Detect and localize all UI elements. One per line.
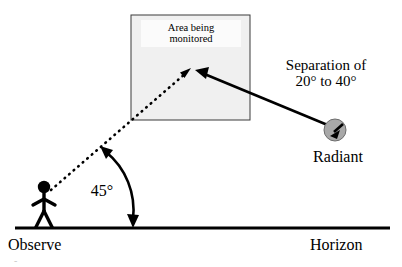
monitored-area-label: Area being monitored <box>141 22 241 45</box>
observer-leg-right <box>44 211 52 227</box>
observer-leg-left <box>36 211 44 227</box>
separation-label: Separation of 20° to 40° <box>255 57 397 89</box>
edge-artifact-mark: - <box>14 256 17 267</box>
angle-arc-lower-arrowhead <box>127 214 139 228</box>
radiant-label: Radiant <box>292 148 384 165</box>
elevation-angle-label: 45° <box>78 182 126 199</box>
observer-label: Observe <box>8 236 61 253</box>
diagram-canvas: Area being monitored Separation of 20° t… <box>0 0 402 267</box>
horizon-label: Horizon <box>310 236 362 253</box>
observer-stick-figure <box>33 181 55 227</box>
